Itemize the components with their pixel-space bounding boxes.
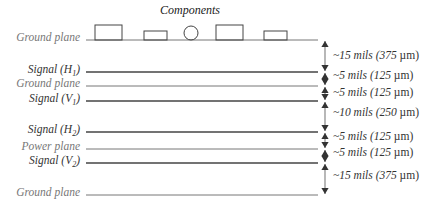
- component-shapes: [95, 25, 287, 40]
- component-shape: [95, 25, 122, 40]
- component-shape: [184, 26, 198, 40]
- component-shape: [144, 31, 167, 40]
- layer-lines: [86, 40, 318, 195]
- component-shape: [264, 31, 287, 40]
- pcb-stackup-diagram: [0, 0, 433, 215]
- component-shape: [216, 25, 243, 40]
